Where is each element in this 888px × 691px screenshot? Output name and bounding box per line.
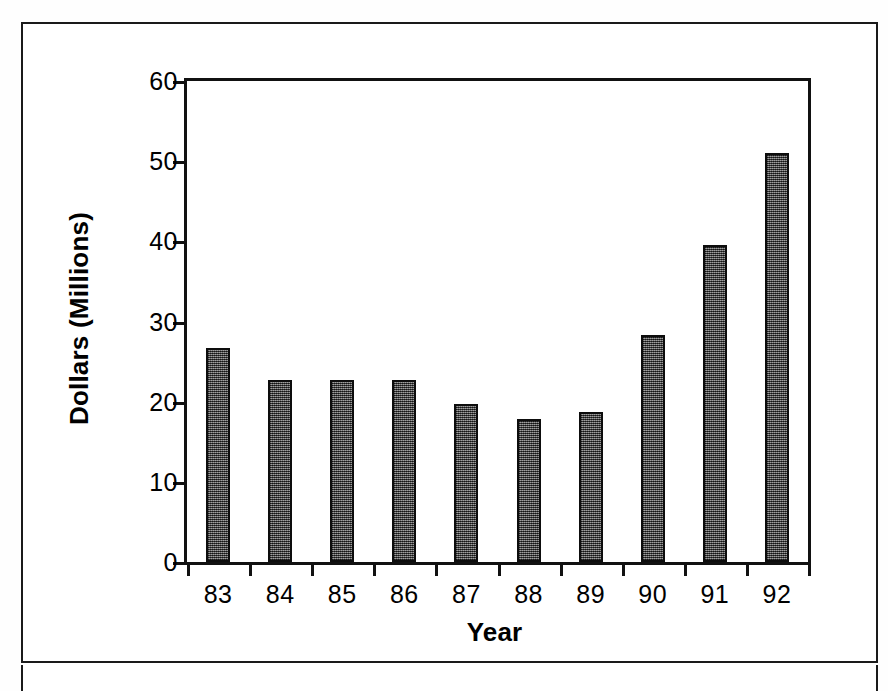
bar [206, 348, 230, 562]
x-axis-tick-mark [311, 562, 314, 576]
chart-page: Dollars (Millions) 010203040506083848586… [0, 0, 888, 691]
x-axis-tick-mark [746, 562, 749, 576]
y-axis-title: Dollars (Millions) [63, 78, 97, 559]
x-axis-tick-label: 87 [452, 582, 481, 607]
figure-outer-frame: Dollars (Millions) 010203040506083848586… [21, 22, 878, 663]
x-axis-title: Year [184, 617, 805, 648]
bar [268, 380, 292, 562]
x-axis-tick-mark [187, 562, 190, 576]
x-axis-tick-mark [622, 562, 625, 576]
y-axis-tick-label: 0 [164, 550, 178, 575]
x-axis-tick-mark [435, 562, 438, 576]
bar [703, 245, 727, 562]
y-axis-tick-label: 60 [149, 69, 178, 94]
x-axis-tick-mark [498, 562, 501, 576]
x-axis-tick-mark [249, 562, 252, 576]
y-axis-tick-label: 40 [149, 229, 178, 254]
bar [765, 153, 789, 562]
x-axis-tick-label: 84 [266, 582, 295, 607]
x-axis-tick-label: 83 [204, 582, 233, 607]
y-axis-title-text: Dollars (Millions) [65, 212, 96, 425]
y-axis-tick-label: 30 [149, 309, 178, 334]
bar [579, 412, 603, 562]
x-axis-tick-mark [684, 562, 687, 576]
bar [454, 404, 478, 562]
y-axis-tick-label: 20 [149, 389, 178, 414]
bar [392, 380, 416, 562]
x-axis-tick-label: 85 [328, 582, 357, 607]
bar [330, 380, 354, 562]
bar-chart-figure: Dollars (Millions) 010203040506083848586… [23, 24, 880, 665]
bar [641, 335, 665, 562]
x-axis-tick-label: 88 [514, 582, 543, 607]
y-axis-tick-label: 10 [149, 469, 178, 494]
x-axis-tick-label: 91 [700, 582, 729, 607]
x-axis-tick-label: 92 [763, 582, 792, 607]
x-axis-tick-mark [808, 562, 811, 576]
x-axis-tick-mark [373, 562, 376, 576]
bar [517, 419, 541, 562]
x-axis-tick-label: 86 [390, 582, 419, 607]
plot-area: 010203040506083848586878889909192 [184, 78, 811, 565]
x-axis-tick-mark [560, 562, 563, 576]
x-axis-tick-label: 90 [638, 582, 667, 607]
figure-lower-frame [21, 665, 878, 691]
y-axis-tick-label: 50 [149, 149, 178, 174]
x-axis-tick-label: 89 [576, 582, 605, 607]
